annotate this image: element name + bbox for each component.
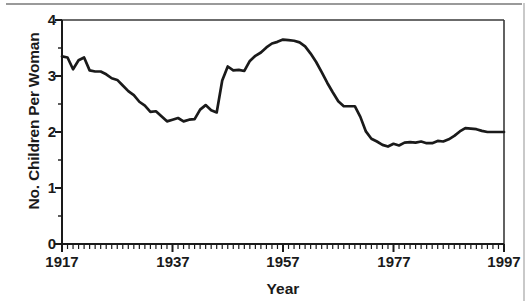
x-tick-label-1997: 1997 [469, 253, 528, 270]
fertility-rate-line [62, 40, 504, 147]
x-tick-label-1917: 1917 [27, 253, 97, 270]
y-tick-label-1: 1 [30, 180, 56, 196]
x-tick-label-1977: 1977 [359, 253, 429, 270]
plot-frame [62, 20, 504, 244]
y-axis-ticks [55, 20, 62, 244]
x-tick-label-1957: 1957 [248, 253, 318, 270]
y-axis-title: No. Children Per Woman [25, 1, 43, 241]
y-tick-label-0: 0 [30, 236, 56, 252]
x-tick-label-1937: 1937 [138, 253, 208, 270]
x-axis-title: Year [62, 280, 504, 298]
y-tick-label-3: 3 [30, 68, 56, 84]
x-axis-ticks [62, 244, 504, 252]
y-tick-label-4: 4 [30, 12, 56, 28]
chart-figure: No. Children Per Woman Year 4 3 2 1 0 19… [0, 0, 528, 304]
y-tick-label-2: 2 [30, 124, 56, 140]
